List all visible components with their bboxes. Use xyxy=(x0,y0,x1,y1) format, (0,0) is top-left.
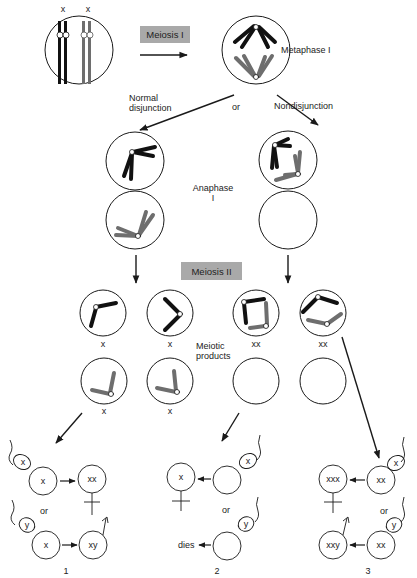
product-cell xyxy=(147,358,193,404)
zygote-label: xy xyxy=(89,540,98,550)
chromosome xyxy=(165,299,180,314)
anaphase-nondis-top-chromosomes xyxy=(272,139,301,180)
product-cell xyxy=(233,358,279,404)
zygote-label: xxy xyxy=(326,540,340,550)
egg-label: xx xyxy=(377,540,386,550)
sperm-label: y xyxy=(244,519,249,529)
zygote-label: xxx xyxy=(326,474,340,484)
outcome-number: 3 xyxy=(365,566,370,576)
sperm-label: y xyxy=(25,520,30,530)
metaphase-1-label: Metaphase I xyxy=(281,45,331,55)
or-label-top: or xyxy=(232,102,240,112)
product-label: x xyxy=(102,406,107,416)
or-label: or xyxy=(380,506,388,516)
chromosome xyxy=(165,315,180,330)
meiosis-1-box: Meiosis I xyxy=(140,26,190,43)
product-label: x xyxy=(168,406,173,416)
normal-label-line1: Normal xyxy=(129,93,158,103)
anaphase-normal-bottom-cell xyxy=(106,191,164,249)
nondisjunction-label: Nondisjunction xyxy=(274,101,333,111)
anaphase-normal-bottom-chromosomes xyxy=(116,212,153,239)
zygote-label: x xyxy=(179,472,184,482)
egg-label: x xyxy=(44,540,49,550)
chromosome xyxy=(96,303,116,307)
anaphase-label-line2: I xyxy=(212,193,215,203)
sperm-label: x xyxy=(394,458,399,468)
product-label: x xyxy=(168,339,173,349)
sperm-label: x xyxy=(21,457,26,467)
chromosome xyxy=(91,308,96,326)
product-cell xyxy=(80,290,126,336)
dies-label: dies xyxy=(178,540,195,550)
nondisjunction-diagram xyxy=(0,0,417,578)
anaphase-normal-top-chromosomes xyxy=(124,147,155,179)
zygote-label: xx xyxy=(88,474,97,484)
egg-label: x xyxy=(41,476,46,486)
outcome-number: 1 xyxy=(63,566,68,576)
parent-chromosomes xyxy=(57,21,93,84)
product-label: xx xyxy=(252,339,261,349)
product-label: xx xyxy=(319,339,328,349)
top-x-label-2: x xyxy=(86,4,91,14)
top-x-label-1: x xyxy=(61,4,66,14)
parent-cell xyxy=(45,16,113,84)
to-outcome-3-arrow xyxy=(342,337,379,458)
product-cell xyxy=(300,358,346,404)
or-label: or xyxy=(40,506,48,516)
meiosis-2-box: Meiosis II xyxy=(181,262,242,280)
meiotic-label-line2: products xyxy=(196,351,231,361)
egg-label: xx xyxy=(377,475,386,485)
normal-label-line2: disjunction xyxy=(129,103,172,113)
sperm-label: x xyxy=(246,456,251,466)
metaphase-chromosomes xyxy=(235,25,275,80)
sperm-label: y xyxy=(392,520,397,530)
meiotic-label-line1: Meiotic xyxy=(196,341,225,351)
product-cell xyxy=(81,358,127,404)
to-outcome-2-arrow xyxy=(222,413,239,441)
anaphase-label-line1: Anaphase xyxy=(193,183,234,193)
product-label: x xyxy=(101,339,106,349)
or-label: or xyxy=(222,505,230,515)
anaphase-nondis-bottom-cell xyxy=(259,191,317,249)
product-cell xyxy=(147,290,193,336)
to-outcome-1-arrow xyxy=(56,413,82,443)
outcome-number: 2 xyxy=(214,566,219,576)
anaphase-normal-top-cell xyxy=(106,132,164,190)
